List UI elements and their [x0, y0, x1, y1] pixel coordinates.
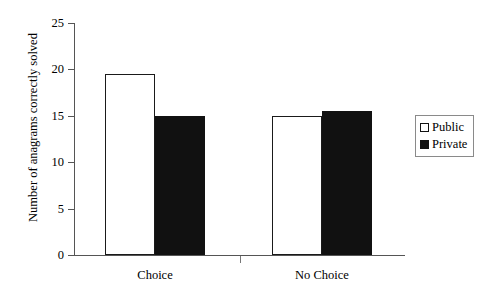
y-tick-label: 20	[0, 61, 64, 77]
bar-private-choice	[155, 116, 205, 255]
legend-item-public: Public	[420, 119, 467, 136]
legend: Public Private	[415, 115, 474, 157]
y-tick-label: 0	[0, 247, 64, 263]
legend-swatch-public-icon	[420, 123, 429, 132]
bar-public-choice	[105, 74, 155, 255]
y-tick-label: 25	[0, 15, 64, 31]
y-tick-label: 15	[0, 108, 64, 124]
y-tick	[68, 255, 75, 256]
y-tick-label: 10	[0, 154, 64, 170]
bars-layer	[74, 23, 405, 255]
x-tick	[240, 256, 241, 263]
x-tick-label: No Choice	[295, 266, 349, 284]
y-axis-title: Number of anagrams correctly solved	[22, 0, 44, 255]
bar-private-no-choice	[322, 111, 372, 255]
legend-label-public: Public	[432, 119, 464, 136]
legend-item-private: Private	[420, 136, 467, 153]
legend-label-private: Private	[432, 136, 467, 153]
x-tick-label: Choice	[137, 266, 172, 284]
legend-swatch-private-icon	[420, 140, 429, 149]
y-tick-label: 5	[0, 201, 64, 217]
bar-chart-figure: Number of anagrams correctly solved 0510…	[0, 0, 496, 295]
bar-public-no-choice	[272, 116, 322, 255]
